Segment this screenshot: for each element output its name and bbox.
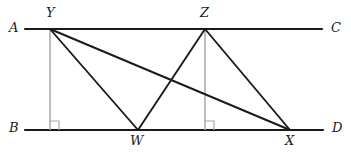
vertex-label-W: W <box>130 134 143 147</box>
segment-ZX <box>205 29 290 130</box>
right-angle-marker-at-Y-foot <box>50 121 59 130</box>
vertex-label-B: B <box>9 121 19 134</box>
vertex-label-Y: Y <box>46 6 55 19</box>
right-angle-marker-at-Z-foot <box>205 121 214 130</box>
segment-ZW <box>138 29 205 130</box>
vertex-label-C: C <box>331 21 341 34</box>
geometry-canvas <box>0 0 351 157</box>
segment-YX <box>50 29 290 130</box>
vertex-label-A: A <box>9 21 18 34</box>
vertex-label-X: X <box>285 134 294 147</box>
geometry-figure: A C B D Y Z W X <box>0 0 351 157</box>
vertex-label-D: D <box>332 121 342 134</box>
segment-YW <box>50 29 138 130</box>
vertex-label-Z: Z <box>200 6 209 19</box>
